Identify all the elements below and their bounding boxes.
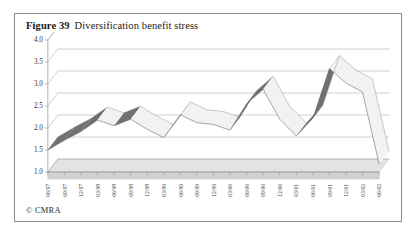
x-axis-tick-label: 09/97 [62, 184, 68, 197]
x-axis-tick-label: 09/99 [194, 184, 200, 197]
x-axis-tick-label: 12/97 [78, 184, 84, 197]
y-axis-tick-label: 4.0 [34, 36, 43, 44]
x-axis-tick-label: 09/98 [128, 184, 134, 197]
chart-x-tick-labels: 06/9709/9712/9703/9806/9809/9812/9803/99… [45, 184, 382, 197]
copyright-credit: © CMRA [26, 205, 61, 215]
x-axis-tick-label: 12/98 [144, 184, 150, 197]
figure-number: Figure 39 [26, 20, 70, 31]
chart-floor-3d [48, 159, 389, 179]
chart-x-tick-marks [48, 172, 379, 175]
y-axis-tick-label: 3.0 [34, 80, 43, 88]
y-axis-tick-label: 1.0 [34, 168, 43, 176]
y-axis-tick-label: 2.5 [34, 102, 43, 110]
chart-y-tick-labels: 1.01.52.02.53.03.54.0 [34, 36, 48, 176]
x-axis-tick-label: 06/97 [45, 184, 51, 197]
x-axis-tick-label: 03/98 [95, 184, 101, 197]
y-axis-tick-label: 3.5 [34, 58, 43, 66]
x-axis-tick-label: 06/00 [244, 184, 250, 197]
page-title: Diversification benefit stress [75, 20, 199, 31]
chart-ribbon-series [48, 56, 389, 164]
x-axis-tick-label: 03/01 [293, 184, 299, 197]
x-axis-tick-label: 09/00 [260, 184, 266, 197]
x-axis-tick-label: 06/99 [178, 184, 184, 197]
x-axis-tick-label: 06/01 [310, 184, 316, 197]
x-axis-tick-label: 06/02 [376, 184, 382, 197]
figure-caption: Figure 39Diversification benefit stress [26, 20, 198, 31]
figure-frame: Figure 39Diversification benefit stress … [14, 13, 402, 222]
chart-gridlines [48, 32, 389, 172]
x-axis-tick-label: 12/99 [211, 184, 217, 197]
diversification-benefit-chart: 1.01.52.02.53.03.54.0 06/9709/9712/9703/… [15, 32, 401, 210]
x-axis-tick-label: 06/98 [111, 184, 117, 197]
chart-axes [48, 32, 379, 172]
y-axis-tick-label: 1.5 [34, 146, 43, 154]
x-axis-tick-label: 03/99 [161, 184, 167, 197]
x-axis-tick-label: 09/01 [327, 184, 333, 197]
x-axis-tick-label: 03/02 [360, 184, 366, 197]
y-axis-tick-label: 2.0 [34, 124, 43, 132]
x-axis-tick-label: 03/00 [227, 184, 233, 197]
x-axis-tick-label: 12/01 [343, 184, 349, 197]
chart-plot-area: 1.01.52.02.53.03.54.0 06/9709/9712/9703/… [15, 32, 401, 210]
x-axis-tick-label: 12/00 [277, 184, 283, 197]
